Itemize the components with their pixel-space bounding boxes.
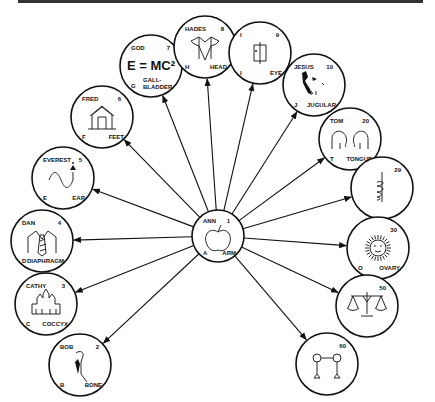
peg-name: HADES: [185, 26, 206, 32]
peg-initial: J: [294, 102, 297, 108]
peg-node: DAN4DDIAPHRAGM: [11, 210, 73, 272]
peg-node: JESUS10JJUGULAR: [283, 54, 345, 116]
connector-arrow: [235, 256, 306, 340]
peg-node: 60: [296, 333, 358, 395]
formula-text: E = MC²: [127, 58, 176, 73]
peg-initial: E: [43, 195, 47, 201]
peg-number: 20: [362, 118, 369, 124]
connector-arrow: [232, 112, 297, 214]
peg-name: CATHY: [26, 283, 46, 289]
peg-name: JESUS: [294, 64, 314, 70]
body-part: BLADDER: [143, 84, 173, 90]
peg-name: GOD: [131, 45, 145, 51]
body-part: COCCYX: [42, 321, 68, 327]
peg-name: DAN: [22, 220, 35, 226]
peg-initial: B: [60, 382, 65, 388]
body-part: EYE: [270, 70, 282, 76]
peg-number: 29: [394, 167, 401, 173]
body-part: BONE: [85, 382, 102, 388]
peg-initial: G: [131, 83, 136, 89]
peg-node: 50: [336, 275, 398, 337]
hub-name: ANN: [203, 218, 216, 224]
peg-node: HADES8HHEAD: [174, 16, 236, 78]
peg-node: GOD7GGALL-BLADDERE = MC²: [120, 35, 182, 97]
connector-arrow: [207, 79, 216, 210]
connector-arrow: [224, 84, 253, 210]
peg-initial: F: [82, 134, 86, 140]
body-part: OVARY: [379, 265, 400, 271]
peg-initial: H: [185, 64, 189, 70]
peg-node: I9IEYE: [229, 22, 291, 84]
peg-number: 60: [339, 343, 346, 349]
peg-initial: O: [358, 265, 363, 271]
connector-arrow: [239, 158, 324, 221]
peg-node: 29: [351, 157, 413, 219]
peg-number: 30: [390, 227, 397, 233]
body-part: FEET: [109, 134, 125, 140]
connector-arrow: [242, 247, 339, 292]
body-part: DIAPHRAGM: [27, 258, 64, 264]
connector-arrow: [243, 197, 351, 229]
hub-node: ANN1AARM: [192, 210, 244, 262]
peg-node: BOB2BBONE: [49, 334, 111, 396]
peg-name: EVEREST: [43, 157, 71, 163]
connector-arrow: [163, 96, 209, 212]
connector-arrow: [103, 254, 199, 343]
node-circle: [296, 333, 358, 395]
hub-body-part: ARM: [222, 250, 236, 256]
body-part: JUGULAR: [307, 102, 337, 108]
peg-initial: C: [26, 321, 31, 327]
peg-number: 10: [326, 64, 333, 70]
hub-initial: A: [203, 250, 208, 256]
peg-node: 30OOVARY: [347, 217, 409, 279]
body-part: HEAD: [210, 64, 228, 70]
body-part: EAR: [72, 195, 85, 201]
peg-node: EVEREST5EEAR: [32, 147, 94, 209]
peg-number: 50: [379, 285, 386, 291]
connector-arrow: [76, 246, 194, 293]
connector-arrow: [74, 237, 192, 240]
peg-diagram: BOB2BBONECATHY3CCOCCYXDAN4DDIAPHRAGMEVER…: [0, 0, 435, 402]
peg-name: TOM: [330, 118, 343, 124]
peg-initial: T: [330, 156, 334, 162]
peg-name: FRED: [82, 96, 99, 102]
hub-circle: [192, 210, 244, 262]
formula-text: E = MC²: [127, 58, 176, 73]
body-part: GALL-: [143, 77, 161, 83]
peg-node: FRED6FFEET: [71, 86, 133, 148]
connector-arrow: [244, 238, 346, 246]
peg-node: CATHY3CCOCCYX: [15, 273, 77, 335]
peg-name: BOB: [60, 344, 74, 350]
